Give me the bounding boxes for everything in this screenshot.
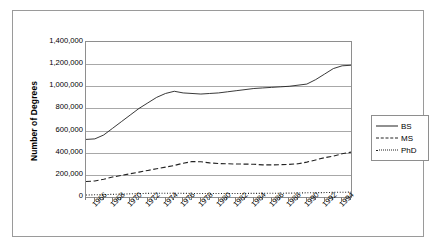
legend-line-swatch-dotted-icon	[376, 146, 398, 154]
y-tick-label: 400,000	[41, 148, 83, 156]
series-line-bs	[86, 65, 351, 139]
y-tick-label: 1,000,000	[41, 81, 83, 89]
chart-figure-frame: Number of Degrees 0200,000400,000600,000…	[12, 10, 424, 237]
legend-line-swatch-dashed-icon	[376, 134, 398, 142]
y-axis-title-text: Number of Degrees	[29, 81, 39, 161]
legend-item-bs[interactable]: BS	[376, 120, 425, 132]
y-tick-label: 600,000	[41, 126, 83, 134]
y-tick-label: 800,000	[41, 104, 83, 112]
y-axis-tick-labels: 0200,000400,000600,000800,0001,000,0001,…	[41, 41, 83, 196]
legend-label: BS	[401, 122, 412, 131]
y-tick-label: 1,400,000	[41, 37, 83, 45]
series-lines	[86, 42, 351, 197]
legend-label: MS	[401, 134, 413, 143]
plot-area	[85, 41, 352, 198]
legend-line-swatch-solid-icon	[376, 122, 398, 130]
y-tick-label: 1,200,000	[41, 59, 83, 67]
legend-label: PhD	[401, 146, 417, 155]
y-tick-label: 200,000	[41, 170, 83, 178]
y-axis-title: Number of Degrees	[26, 59, 42, 183]
legend-item-ms[interactable]: MS	[376, 132, 425, 144]
x-axis-tick-labels: 1966196819701972197419761978198019821984…	[13, 197, 433, 247]
legend-item-phd[interactable]: PhD	[376, 144, 425, 156]
chart-legend: BSMSPhD	[371, 115, 429, 161]
series-line-ms	[86, 152, 351, 181]
